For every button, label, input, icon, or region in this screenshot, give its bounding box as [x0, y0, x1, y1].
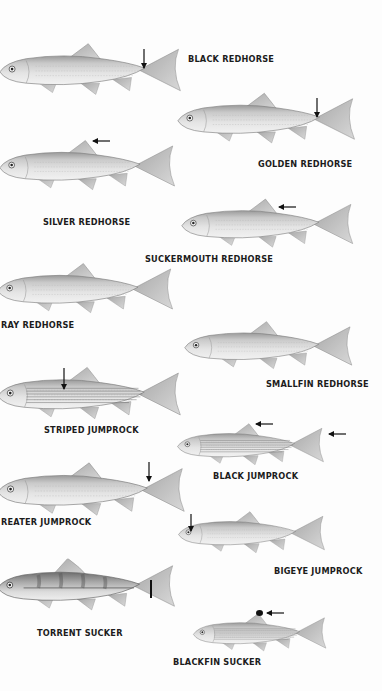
caudal-bar-mark — [150, 580, 152, 598]
greater-jumprock-illustration — [0, 460, 190, 520]
bigeye-jumprock-label: BIGEYE JUMPROCK — [274, 566, 362, 576]
black-jumprock-illustration — [176, 422, 328, 468]
arrow-icon — [60, 368, 68, 392]
gray-redhorse-label: RAY REDHORSE — [1, 320, 74, 330]
gray-redhorse-illustration — [0, 258, 178, 320]
arrow-icon — [187, 514, 195, 534]
smallfin-redhorse-label: SMALLFIN REDHORSE — [266, 379, 369, 389]
silver-redhorse-label: SILVER REDHORSE — [43, 217, 130, 227]
arrow-icon — [254, 420, 274, 428]
arrow-icon — [140, 49, 148, 71]
striped-jumprock-label: STRIPED JUMPROCK — [44, 425, 139, 435]
black-jumprock-label: BLACK JUMPROCK — [213, 471, 298, 481]
blackfin-sucker-illustration — [192, 610, 330, 656]
bigeye-jumprock-illustration — [177, 507, 329, 559]
fish-identification-plate: BLACK REDHORSE GOLDEN REDHORSE SILVER RE… — [0, 0, 382, 691]
arrow-icon — [277, 203, 297, 211]
arrow-icon — [313, 98, 321, 120]
arrow-icon — [265, 609, 285, 617]
silver-redhorse-illustration — [0, 128, 180, 204]
arrow-icon — [327, 430, 347, 438]
striped-jumprock-illustration — [0, 365, 186, 423]
golden-redhorse-illustration — [176, 85, 360, 153]
greater-jumprock-label: REATER JUMPROCK — [1, 517, 91, 527]
black-redhorse-label: BLACK REDHORSE — [188, 54, 274, 64]
black-fin-tip-mark — [256, 610, 263, 616]
arrow-icon — [145, 462, 153, 484]
smallfin-redhorse-illustration — [183, 318, 357, 374]
arrow-icon — [91, 137, 111, 145]
golden-redhorse-label: GOLDEN REDHORSE — [258, 159, 352, 169]
black-redhorse-illustration — [0, 40, 186, 100]
torrent-sucker-label: TORRENT SUCKER — [37, 628, 123, 638]
torrent-sucker-illustration — [0, 550, 180, 622]
blackfin-sucker-label: BLACKFIN SUCKER — [173, 657, 261, 667]
suckermouth-redhorse-illustration — [180, 192, 358, 256]
